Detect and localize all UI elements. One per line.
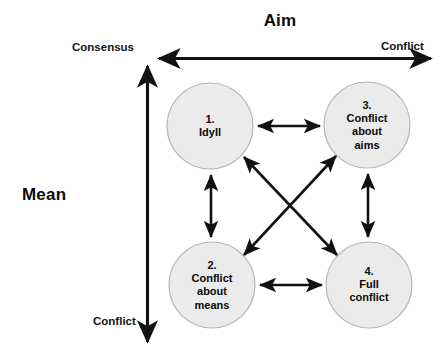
- axis-label-conflict-aim: Conflict: [381, 40, 424, 52]
- node-circle-2[interactable]: [169, 242, 255, 328]
- node-circle-3[interactable]: [324, 82, 410, 168]
- axis-label-conflict-mean: Conflict: [93, 315, 136, 327]
- axis-label-consensus: Consensus: [72, 41, 134, 53]
- diagram-title-mean: Mean: [22, 185, 66, 205]
- concept-diagram: [0, 0, 448, 357]
- node-circle-4[interactable]: [326, 242, 412, 328]
- diagram-title-aim: Aim: [56, 11, 448, 31]
- node-circle-1[interactable]: [167, 83, 253, 169]
